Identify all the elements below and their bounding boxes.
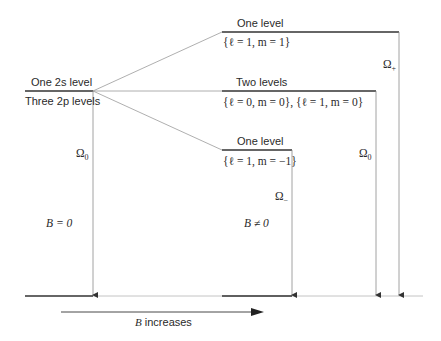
middle-level-quantum: {ℓ = 0, m = 0}, {ℓ = 1, m = 0}: [223, 96, 363, 109]
lower-level-quantum: {ℓ = 1, m = −1}: [223, 155, 297, 168]
connector-lower: [93, 91, 222, 150]
level-diagram: One 2s level Three 2p levels Ω0 B = 0 On…: [0, 0, 441, 341]
label-2s-level: One 2s level: [31, 76, 92, 88]
upper-level-title: One level: [237, 17, 283, 29]
label-2p-levels: Three 2p levels: [25, 95, 101, 107]
b-increases-arrowhead: [251, 308, 264, 316]
omega0-left-label: Ω0: [76, 147, 89, 162]
upper-level-quantum: {ℓ = 1, m = 1}: [223, 36, 290, 49]
lower-level-title: One level: [237, 135, 283, 147]
field-zero-label: B = 0: [46, 217, 73, 229]
omega-minus-label: Ω−: [275, 190, 289, 205]
omega-plus-label: Ω+: [383, 58, 397, 73]
b-increases-label: B increases: [135, 316, 192, 328]
connector-upper: [93, 32, 222, 91]
middle-level-title: Two levels: [236, 76, 288, 88]
field-nonzero-label: B ≠ 0: [244, 217, 269, 229]
omega0-right-label: Ω0: [359, 147, 372, 162]
